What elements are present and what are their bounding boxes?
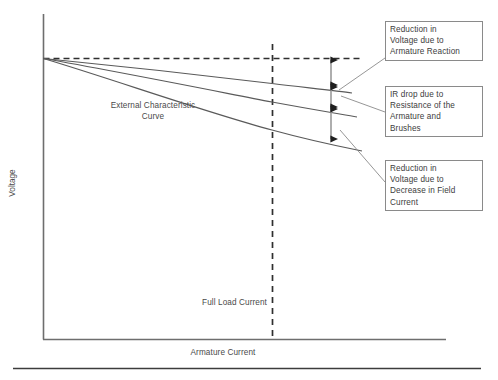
leader-line-armature-reaction — [339, 58, 385, 90]
full-load-current-label: Full Load Current — [172, 298, 267, 309]
dc-generator-external-characteristic-figure: Voltage Armature Current External Charac… — [0, 0, 498, 380]
annotation-text-armature-reaction: Reduction in Voltage due to Armature Rea… — [390, 24, 482, 58]
external-characteristic-curve-label: External Characteristic Curve — [78, 101, 228, 122]
y-axis-label: Voltage — [8, 148, 17, 218]
annotation-text-field-current: Reduction in Voltage due to Decrease in … — [390, 163, 482, 208]
leader-line-field-current — [340, 130, 385, 182]
x-axis-label: Armature Current — [0, 348, 446, 359]
annotation-text-ir-drop: IR drop due to Resistance of the Armatur… — [390, 89, 482, 134]
leader-line-ir-drop — [341, 96, 385, 112]
